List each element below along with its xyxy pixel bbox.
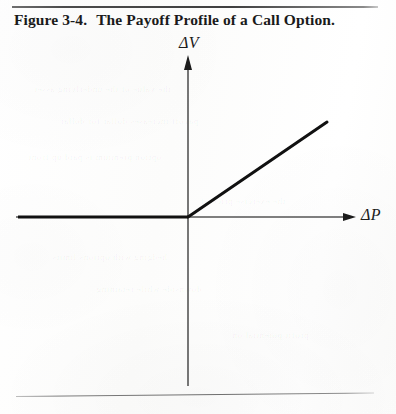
y-axis-label: ΔV	[179, 34, 199, 52]
payoff-line	[18, 122, 327, 217]
vertical-axis	[184, 55, 192, 386]
figure-page: the value of the underlying asset payoff…	[0, 0, 396, 414]
up-arrow-icon	[184, 55, 192, 70]
x-axis-label: ΔP	[361, 206, 381, 224]
payoff-rising-segment	[188, 122, 327, 217]
right-arrow-icon	[343, 213, 356, 221]
payoff-diagram	[0, 0, 396, 414]
